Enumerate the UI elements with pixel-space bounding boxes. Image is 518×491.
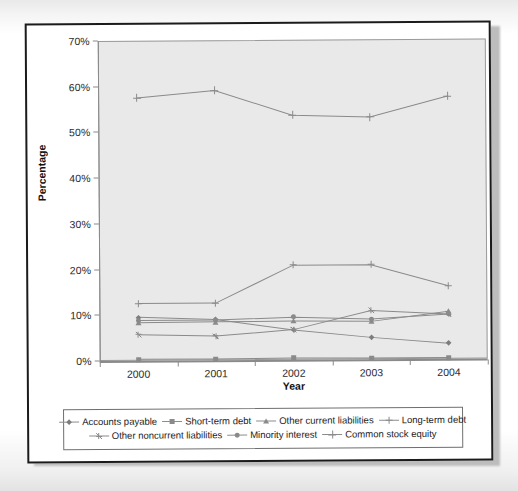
star-marker-icon <box>96 433 102 439</box>
legend-item[interactable]: Short-term debt <box>160 414 254 429</box>
series-lines <box>27 23 492 462</box>
cross-marker-icon <box>212 300 219 307</box>
legend-item-label: Other current liabilities <box>279 413 375 428</box>
legend-marker-key <box>59 417 79 427</box>
triangle-marker-icon <box>263 418 269 423</box>
square-marker-icon <box>136 357 141 362</box>
circle-marker-icon <box>369 317 374 322</box>
legend-item[interactable]: Common stock equity <box>320 427 439 442</box>
legend-item-label: Common stock equity <box>345 427 437 442</box>
plus-marker-icon <box>443 92 451 100</box>
square-marker-icon <box>214 356 219 361</box>
legend-marker-key <box>256 416 276 426</box>
legend-item[interactable]: Accounts payable <box>57 415 160 430</box>
circle-marker-icon <box>291 315 296 320</box>
circle-marker-icon <box>235 433 240 438</box>
legend-marker-key <box>162 416 182 426</box>
diamond-marker-icon <box>66 419 72 425</box>
square-marker-icon <box>369 355 374 360</box>
cross-marker-icon <box>367 261 374 268</box>
cross-marker-icon <box>445 282 452 289</box>
square-marker-icon <box>170 419 175 424</box>
legend-marker-key <box>89 431 109 441</box>
legend-marker-key <box>379 415 399 425</box>
scanned-page-background: 0%10%20%30%40%50%60%70% Percentage 20002… <box>0 0 518 491</box>
circle-marker-icon <box>446 312 451 317</box>
legend-item[interactable]: Long-term debt <box>377 413 470 428</box>
legend-item[interactable]: Other noncurrent liabilities <box>87 428 225 443</box>
circle-marker-icon <box>213 318 218 323</box>
line-chart: 0%10%20%30%40%50%60%70% Percentage 20002… <box>27 23 492 462</box>
legend-item[interactable]: Minority interest <box>225 428 320 443</box>
legend-item-label: Short-term debt <box>185 414 252 428</box>
plus-marker-icon <box>288 111 296 119</box>
cross-marker-icon <box>385 417 392 424</box>
plus-marker-icon <box>328 431 336 439</box>
legend-item-label: Other noncurrent liabilities <box>112 428 223 443</box>
legend-marker-key <box>227 430 247 440</box>
star-marker-icon <box>135 332 141 338</box>
legend-item-label: Long-term debt <box>402 413 468 427</box>
square-marker-icon <box>446 355 451 360</box>
cross-marker-icon <box>135 300 142 307</box>
chart-legend: Accounts payableShort-term debtOther cur… <box>63 407 463 450</box>
figure-border-box: 0%10%20%30%40%50%60%70% Percentage 20002… <box>25 21 494 464</box>
cross-marker-icon <box>290 262 297 269</box>
plus-marker-icon <box>133 94 141 102</box>
star-marker-icon <box>291 327 297 333</box>
series-line <box>138 264 449 303</box>
plus-marker-icon <box>210 87 218 95</box>
plus-marker-icon <box>366 113 374 121</box>
legend-marker-key <box>322 429 342 439</box>
legend-item-label: Minority interest <box>250 428 318 442</box>
square-marker-icon <box>291 355 296 360</box>
legend-item-label: Accounts payable <box>82 415 158 429</box>
circle-marker-icon <box>136 318 141 323</box>
star-marker-icon <box>368 307 374 313</box>
legend-item[interactable]: Other current liabilities <box>254 413 377 428</box>
legend-row-bottom: Other noncurrent liabilitiesMinority int… <box>68 427 458 443</box>
star-marker-icon <box>213 333 219 339</box>
